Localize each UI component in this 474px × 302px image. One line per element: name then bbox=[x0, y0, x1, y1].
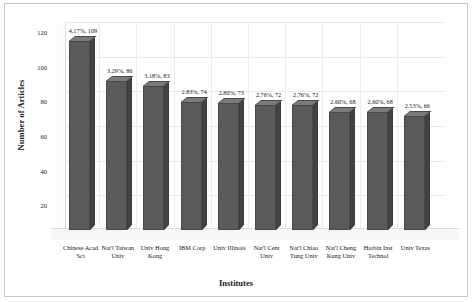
bar-side-face bbox=[388, 107, 393, 230]
bar-data-label: 2.76%, 72 bbox=[293, 91, 318, 98]
x-axis-category-label: Nat'l ChengKung Univ bbox=[321, 244, 360, 261]
x-axis-title: Institutes bbox=[5, 278, 467, 288]
bar[interactable]: 2.80%, 73 bbox=[218, 103, 239, 230]
x-axis-category-label-line: Nat'l Taiwan bbox=[98, 244, 137, 252]
bar[interactable]: 2.83%, 74 bbox=[181, 102, 202, 230]
y-axis-tick-label: 100 bbox=[21, 63, 47, 70]
x-axis-category-label-line: Tung Univ bbox=[284, 252, 323, 260]
bar-side-face bbox=[202, 97, 207, 230]
bar[interactable]: 3.18%, 83 bbox=[143, 86, 164, 230]
bar-front-face bbox=[292, 105, 313, 230]
bar[interactable]: 2.60%, 68 bbox=[367, 112, 388, 230]
bar-side-face bbox=[350, 107, 355, 230]
bar-side-face bbox=[425, 110, 430, 230]
bar-data-label: 3.29%, 86 bbox=[107, 67, 132, 74]
x-axis-category-label-line: Univ bbox=[98, 252, 137, 260]
bar-front-face bbox=[367, 112, 388, 230]
x-axis-category-label-line: Univ bbox=[247, 252, 286, 260]
bar-side-face bbox=[239, 98, 244, 230]
x-axis-category-label-line: Univ Texas bbox=[396, 244, 435, 252]
x-axis-category-label-line: Nat'l Cheng bbox=[321, 244, 360, 252]
bar-data-label: 2.83%, 74 bbox=[181, 88, 206, 95]
bar-data-label: 3.18%, 83 bbox=[144, 72, 169, 79]
y-axis-tick-label: 40 bbox=[21, 167, 47, 174]
bar-side-face bbox=[127, 76, 132, 230]
bar-data-label: 2.60%, 68 bbox=[330, 98, 355, 105]
x-axis-category-label-line: Nat'l Chiao bbox=[284, 244, 323, 252]
bar-front-face bbox=[218, 103, 239, 230]
x-axis-category-label-line: Chinese Acad bbox=[61, 244, 100, 252]
x-axis-category-label: Univ Illinois bbox=[210, 244, 249, 252]
bar-data-label: 4.17%, 109 bbox=[69, 27, 97, 34]
x-axis-category-label-line: Univ Illinois bbox=[210, 244, 249, 252]
x-axis-category-label: Chinese AcadSci bbox=[61, 244, 100, 261]
bar-side-face bbox=[164, 81, 169, 230]
bar-front-face bbox=[143, 86, 164, 230]
bar-data-label: 2.60%, 68 bbox=[367, 98, 392, 105]
bar-front-face bbox=[404, 116, 425, 230]
bar[interactable]: 3.29%, 86 bbox=[106, 81, 127, 230]
x-axis-category-label-line: Sci bbox=[61, 252, 100, 260]
x-axis-category-label-line: IBM Corp bbox=[173, 244, 212, 252]
x-axis-category-label-line: Univ Hong bbox=[135, 244, 174, 252]
x-axis-category-labels: Chinese AcadSciNat'l TaiwanUnivUniv Hong… bbox=[51, 244, 445, 274]
x-axis-category-label: Nat'l CentUniv bbox=[247, 244, 286, 261]
y-axis-ticks: 20406080100120 bbox=[17, 22, 47, 240]
x-axis-category-label: IBM Corp bbox=[173, 244, 212, 252]
x-axis-category-label-line: Kung Univ bbox=[321, 252, 360, 260]
x-axis-category-label: Nat'l TaiwanUniv bbox=[98, 244, 137, 261]
x-axis-category-label: Nat'l ChiaoTung Univ bbox=[284, 244, 323, 261]
y-axis-tick-label: 120 bbox=[21, 29, 47, 36]
bar-side-face bbox=[313, 100, 318, 230]
x-axis-category-label: Univ Texas bbox=[396, 244, 435, 252]
bar[interactable]: 2.60%, 68 bbox=[329, 112, 350, 230]
x-axis-category-label-line: Nat'l Cent bbox=[247, 244, 286, 252]
bar-front-face bbox=[181, 102, 202, 230]
bar-front-face bbox=[106, 81, 127, 230]
bar-side-face bbox=[276, 100, 281, 230]
x-axis-category-label: Harbin InstTechnol bbox=[359, 244, 398, 261]
x-axis-category-label: Univ HongKong bbox=[135, 244, 174, 261]
y-axis-tick-label: 20 bbox=[21, 202, 47, 209]
bar[interactable]: 4.17%, 109 bbox=[69, 41, 90, 230]
x-axis-category-label-line: Technol bbox=[359, 252, 398, 260]
bar[interactable]: 2.76%, 72 bbox=[292, 105, 313, 230]
bar-front-face bbox=[69, 41, 90, 230]
x-axis-category-label-line: Harbin Inst bbox=[359, 244, 398, 252]
bar-front-face bbox=[255, 105, 276, 230]
bar-data-label: 2.53%, 66 bbox=[405, 102, 430, 109]
x-axis-category-label-line: Kong bbox=[135, 252, 174, 260]
chart-container: Number of Articles 20406080100120 4.17%,… bbox=[4, 3, 468, 297]
bar-data-label: 2.76%, 72 bbox=[256, 91, 281, 98]
bar[interactable]: 2.53%, 66 bbox=[404, 116, 425, 230]
bar-side-face bbox=[90, 36, 95, 230]
y-axis-tick-label: 80 bbox=[21, 98, 47, 105]
y-axis-tick-label: 60 bbox=[21, 133, 47, 140]
bar[interactable]: 2.76%, 72 bbox=[255, 105, 276, 230]
bar-data-label: 2.80%, 73 bbox=[219, 89, 244, 96]
bars-layer: 4.17%, 1093.29%, 863.18%, 832.83%, 742.8… bbox=[51, 22, 445, 240]
bar-front-face bbox=[329, 112, 350, 230]
